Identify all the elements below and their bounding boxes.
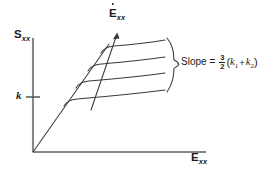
- k1-subscript: 1: [235, 62, 239, 70]
- slope-word: Slope: [181, 57, 207, 67]
- k2-base: k: [246, 56, 251, 67]
- x-axis-label-subscript: xx: [199, 157, 207, 166]
- y-axis-tick-label-k: k: [16, 90, 22, 101]
- flow-curve-3: [88, 57, 165, 71]
- flow-curve-1: [64, 90, 165, 106]
- plus-sign: +: [239, 58, 245, 68]
- y-axis-label-subscript: xx: [22, 34, 30, 43]
- strain-rate-arrow-shaft: [91, 37, 116, 110]
- strain-rate-label-subscript: xx: [117, 13, 125, 22]
- slope-brace: [167, 38, 179, 92]
- k2-term: k2: [246, 57, 254, 68]
- x-axis-label: Exx: [191, 152, 207, 164]
- y-axis-label-base: S: [14, 28, 22, 40]
- slope-annotation: Slope = 3 2 ( k1 + k2 ): [181, 54, 258, 71]
- flow-curve-4: [101, 40, 165, 53]
- strain-rate-label-base-wrap: E: [109, 8, 117, 20]
- flow-curve-2: [76, 73, 165, 88]
- k2-subscript: 2: [251, 62, 255, 70]
- strain-rate-arrow-head: [113, 33, 120, 40]
- slope-equals-sign: =: [210, 57, 216, 67]
- elastic-loading-line: [33, 44, 109, 152]
- slope-fraction-denominator: 2: [220, 63, 224, 71]
- paren-close: ): [254, 57, 258, 68]
- y-axis-label: Sxx: [14, 29, 30, 41]
- strain-rate-label: Exx: [109, 8, 125, 20]
- figure-canvas: [0, 0, 277, 176]
- strain-rate-label-base: E: [109, 7, 117, 19]
- slope-fraction: 3 2: [219, 54, 225, 71]
- stress-strain-figure: Sxx Exx k Exx Slope = 3 2 ( k1 + k2 ): [0, 0, 277, 176]
- x-axis-label-base: E: [191, 151, 199, 163]
- k1-term: k1: [230, 57, 238, 68]
- slope-fraction-numerator: 3: [220, 54, 224, 62]
